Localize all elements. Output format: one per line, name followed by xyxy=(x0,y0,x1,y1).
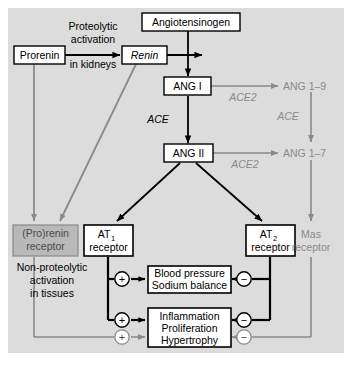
sign-plus-at1-inflammation-label: + xyxy=(119,314,125,326)
node-angiotensinogen-label: Angiotensinogen xyxy=(152,16,230,28)
label-proteolytic-line2: activation xyxy=(71,33,116,45)
node-ang-i-label: ANG I xyxy=(173,80,202,92)
sign-minus-at2-inflammation-label: − xyxy=(241,314,247,326)
sign-plus-at1-bp: + xyxy=(115,272,129,286)
node-inflammation-line3: Hypertrophy xyxy=(161,334,219,346)
sign-minus-mas-inflammation-label: − xyxy=(241,331,247,343)
sign-minus-at2-inflammation: − xyxy=(237,313,251,327)
node-ang-1-9-label: ANG 1–9 xyxy=(283,80,326,92)
label-ace2-bottom: ACE2 xyxy=(230,158,259,170)
node-at1-receptor-line1: AT xyxy=(98,228,111,240)
pathway-diagram: Prorenin Renin Angiotensinogen ANG I ANG… xyxy=(0,0,352,367)
node-renin: Renin xyxy=(122,46,167,64)
node-prorenin-label: Prorenin xyxy=(20,49,60,61)
node-ang-ii: ANG II xyxy=(164,144,213,162)
node-mas-receptor-line2: receptor xyxy=(292,241,331,253)
label-proteolytic-line1: Proteolytic xyxy=(68,20,117,32)
node-at2-receptor-line2: receptor xyxy=(251,241,290,253)
node-prorenin-receptor-line2: receptor xyxy=(26,240,65,252)
label-nonproteolytic-line2: activation xyxy=(30,274,75,286)
node-inflammation-line2: Proliferation xyxy=(161,322,217,334)
sign-plus-prorenin-inflammation: + xyxy=(115,330,129,344)
node-mas-receptor-line1: Mas xyxy=(301,228,321,240)
label-nonproteolytic-line3: in tissues xyxy=(30,287,74,299)
figure-canvas: Prorenin Renin Angiotensinogen ANG I ANG… xyxy=(0,0,352,367)
label-proteolytic-line3: in kidneys xyxy=(70,58,117,70)
sign-plus-at1-inflammation: + xyxy=(115,313,129,327)
node-ang-1-7-label: ANG 1–7 xyxy=(283,147,326,159)
sign-minus-at2-bp: − xyxy=(237,272,251,286)
sign-minus-mas-inflammation: − xyxy=(237,330,251,344)
node-renin-label: Renin xyxy=(131,49,159,61)
node-ang-ii-label: ANG II xyxy=(173,147,205,159)
label-nonproteolytic-line1: Non-proteolytic xyxy=(17,261,88,273)
node-inflammation: Inflammation Proliferation Hypertrophy xyxy=(148,308,231,347)
label-ace2-top: ACE2 xyxy=(228,91,257,103)
node-blood-pressure-line1: Blood pressure xyxy=(154,267,225,279)
sign-plus-prorenin-inflammation-label: + xyxy=(119,331,125,343)
sign-plus-at1-bp-label: + xyxy=(119,273,125,285)
node-prorenin-receptor: (Pro)renin receptor xyxy=(13,225,78,256)
node-blood-pressure-line2: Sodium balance xyxy=(152,279,227,291)
node-at1-receptor-line2: receptor xyxy=(89,241,128,253)
node-at2-receptor: AT 2 receptor xyxy=(246,225,295,256)
node-prorenin-receptor-line1: (Pro)renin xyxy=(22,227,69,239)
node-ang-i: ANG I xyxy=(164,77,211,95)
node-prorenin: Prorenin xyxy=(14,46,65,64)
label-ace-right: ACE xyxy=(276,110,300,122)
node-inflammation-line1: Inflammation xyxy=(159,310,219,322)
node-blood-pressure: Blood pressure Sodium balance xyxy=(148,266,231,293)
sign-minus-at2-bp-label: − xyxy=(241,273,247,285)
label-ace-left: ACE xyxy=(146,113,170,125)
node-angiotensinogen: Angiotensinogen xyxy=(142,13,240,31)
node-at2-receptor-line1: AT xyxy=(260,228,273,240)
node-at1-receptor: AT 1 receptor xyxy=(84,225,133,256)
